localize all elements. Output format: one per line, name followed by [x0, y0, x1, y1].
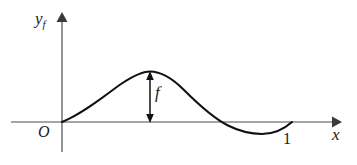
deflection-label: f — [155, 84, 160, 101]
figure-container: yf O f 1 x — [0, 0, 357, 165]
y-axis-label: yf — [35, 10, 46, 30]
x-axis-label: x — [332, 126, 340, 143]
y-axis-label-subscript: f — [43, 18, 46, 30]
y-axis-arrowhead-icon — [57, 12, 68, 22]
figure-svg — [0, 0, 357, 165]
origin-label: O — [38, 124, 50, 140]
y-axis-label-base: y — [35, 9, 43, 28]
unit-label: 1 — [283, 131, 291, 147]
deflection-curve — [62, 72, 292, 135]
